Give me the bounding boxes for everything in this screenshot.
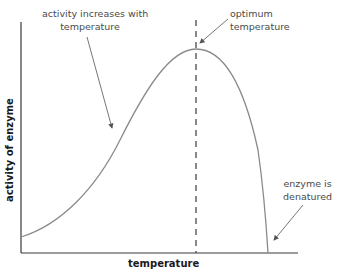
label-rising-line1: activity increases with (42, 7, 138, 20)
arrow-optimum (200, 19, 228, 43)
x-axis-label: temperature (128, 258, 199, 269)
label-denatured-line2: denatured (283, 190, 332, 203)
label-optimum-line2: temperature (230, 20, 290, 33)
arrow-rising (87, 37, 112, 128)
label-rising: activity increases with temperature (42, 7, 138, 33)
label-denatured: enzyme is denatured (283, 177, 332, 203)
label-rising-line2: temperature (42, 20, 138, 33)
y-axis-label: activity of enzyme (4, 98, 15, 202)
activity-curve (21, 49, 268, 253)
label-optimum-line1: optimum (230, 7, 290, 20)
label-optimum: optimum temperature (230, 7, 290, 33)
arrow-denatured (274, 205, 303, 240)
enzyme-activity-diagram (0, 0, 339, 275)
label-denatured-line1: enzyme is (283, 177, 332, 190)
